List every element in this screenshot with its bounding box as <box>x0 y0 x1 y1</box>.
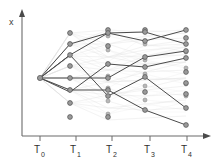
tick-label-t4-base: T <box>181 144 187 155</box>
tick-label-t1-base: T <box>70 144 76 155</box>
trellis-canvas: x T 0 T 1 T 2 T 3 T 4 <box>0 0 218 167</box>
tick-label-t4-sub: 4 <box>188 151 192 158</box>
tick-label-t2-sub: 2 <box>113 151 117 158</box>
tick-label-t1-sub: 1 <box>77 151 81 158</box>
tick-label-t3-sub: 3 <box>151 151 155 158</box>
node-t0 <box>37 75 42 80</box>
tick-label-t0-sub: 0 <box>41 151 45 158</box>
y-axis-label: x <box>9 17 14 27</box>
tick-label-t2-base: T <box>106 144 112 155</box>
x-axis <box>22 133 211 141</box>
y-axis <box>19 9 25 136</box>
lattice-node-cloud <box>68 31 188 116</box>
path-6 <box>40 78 186 125</box>
x-axis-arrowhead <box>203 133 211 139</box>
y-axis-arrowhead <box>19 9 25 17</box>
tick-label-t0-base: T <box>34 144 40 155</box>
tick-label-t3-base: T <box>144 144 150 155</box>
x-axis-tick-labels: T 0 T 1 T 2 T 3 T 4 <box>34 144 192 158</box>
trellis-figure: x T 0 T 1 T 2 T 3 T 4 <box>0 0 218 167</box>
